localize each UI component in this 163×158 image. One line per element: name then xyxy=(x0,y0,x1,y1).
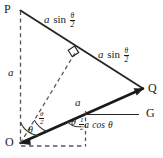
edge-label-a-sin-half-theta-lower: a sin θ 2 xyxy=(98,47,129,63)
vertex-label-Q: Q xyxy=(148,82,157,94)
figure-canvas xyxy=(0,0,163,158)
angle-label-half-theta-at-O: θ 2 xyxy=(39,111,44,126)
angle-label-theta-at-base: θ xyxy=(71,117,76,127)
vertex-label-O: O xyxy=(5,136,14,148)
edge-label-base-a: a xyxy=(44,13,50,25)
edge-label-a-on-OQ: a xyxy=(75,97,81,108)
edge-label-a-sin-half-theta-upper: a sin θ 2 xyxy=(44,12,75,28)
vertex-label-P: P xyxy=(4,3,11,15)
angle-label-theta-at-O: θ xyxy=(28,125,33,135)
edge-label-a-on-OP: a xyxy=(8,67,14,78)
edge-label-frac-theta-over-2: θ 2 xyxy=(124,47,129,63)
geometry-figure: P Q O G a sin θ 2 a sin θ 2 a a 1 2 a co… xyxy=(0,0,163,158)
edge-label-frac-theta-over-2: θ 2 xyxy=(70,12,75,28)
vertex-label-G: G xyxy=(146,107,155,119)
edge-label-fn-sin: sin xyxy=(53,13,66,25)
edge-label-fn-sin: sin xyxy=(107,48,120,60)
composite-base-a: a xyxy=(84,120,89,130)
label-half-a-cos-theta: 1 2 a cos θ xyxy=(79,117,113,132)
edge-label-base-a: a xyxy=(98,48,104,60)
half-theta-fraction: θ 2 xyxy=(39,111,44,126)
composite-arg-theta: θ xyxy=(108,120,113,130)
composite-fn-cos: cos xyxy=(92,120,105,130)
